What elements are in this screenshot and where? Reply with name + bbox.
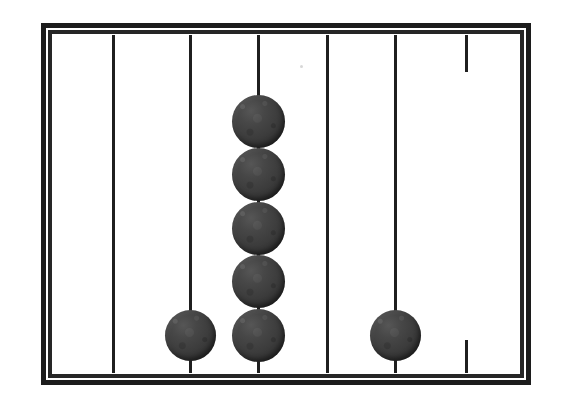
bead-rod2-1[interactable] [165,310,216,361]
rod-4-shaft [326,35,329,373]
rod-6-bottom-stub [465,340,468,373]
bead-rod3-4[interactable] [232,255,285,308]
bead-rod3-1[interactable] [232,95,285,148]
rod-6-top-stub [465,35,468,72]
abacus-figure [0,0,572,416]
bead-rod5-1[interactable] [370,310,421,361]
bead-rod3-3[interactable] [232,202,285,255]
bead-rod3-2[interactable] [232,148,285,201]
bead-rod3-5[interactable] [232,309,285,362]
rod-1-shaft [112,35,115,373]
abacus-field [53,35,519,373]
scan-speck [300,65,303,68]
